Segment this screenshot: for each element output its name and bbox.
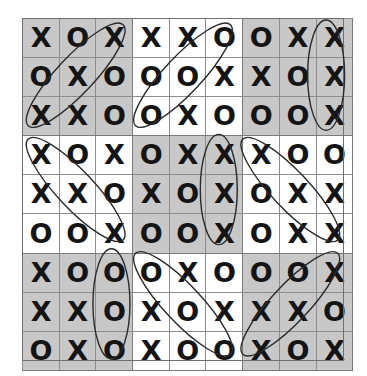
o-mark-glyph: O [317, 136, 353, 174]
grid-cell-r1-c1[interactable]: X [23, 19, 60, 58]
o-mark-glyph: O [206, 254, 242, 292]
grid-cell-r7-c4[interactable]: O [133, 253, 170, 292]
grid-cell-r9-c4[interactable]: X [133, 331, 170, 370]
grid-cell-r3-c7[interactable]: O [243, 97, 280, 136]
x-mark-glyph: X [317, 215, 353, 253]
grid-cell-r9-c7[interactable]: X [243, 331, 280, 370]
grid-cell-r3-c6[interactable]: O [206, 97, 243, 136]
grid-cell-r7-c1[interactable]: X [23, 253, 60, 292]
grid-cell-r7-c3[interactable]: O [96, 253, 133, 292]
grid-cell-r1-c5[interactable]: X [169, 19, 206, 58]
grid-row: XXOOXOOOX [23, 97, 353, 136]
grid-cell-r7-c5[interactable]: X [169, 253, 206, 292]
grid-cell-r7-c9[interactable]: X [316, 253, 353, 292]
x-mark-glyph: X [206, 215, 242, 253]
grid-cell-r2-c1[interactable]: O [23, 58, 60, 97]
grid-cell-r7-c2[interactable]: O [59, 253, 96, 292]
grid-cell-r6-c1[interactable]: O [23, 214, 60, 253]
x-mark-glyph: X [60, 97, 96, 135]
grid-cell-r9-c9[interactable]: X [316, 331, 353, 370]
grid-cell-r6-c4[interactable]: O [133, 214, 170, 253]
grid-cell-r2-c2[interactable]: X [59, 58, 96, 97]
grid-cell-r6-c2[interactable]: O [59, 214, 96, 253]
grid-cell-r9-c5[interactable]: O [169, 331, 206, 370]
grid-cell-r7-c6[interactable]: O [206, 253, 243, 292]
grid-cell-r5-c5[interactable]: O [169, 175, 206, 214]
grid-cell-r5-c3[interactable]: O [96, 175, 133, 214]
grid-cell-r5-c7[interactable]: O [243, 175, 280, 214]
o-mark-glyph: O [60, 136, 96, 174]
grid-cell-r6-c5[interactable]: O [169, 214, 206, 253]
grid-cell-r3-c3[interactable]: O [96, 97, 133, 136]
o-mark-glyph: O [170, 58, 206, 96]
grid-cell-r4-c4[interactable]: O [133, 136, 170, 175]
grid-cell-r4-c1[interactable]: X [23, 136, 60, 175]
grid-cell-r3-c9[interactable]: X [316, 97, 353, 136]
grid-cell-r5-c2[interactable]: X [59, 175, 96, 214]
grid-cell-r2-c5[interactable]: O [169, 58, 206, 97]
grid-cell-r9-c8[interactable]: O [279, 331, 316, 370]
grid-cell-r4-c6[interactable]: X [206, 136, 243, 175]
grid-cell-r6-c7[interactable]: O [243, 214, 280, 253]
x-mark-glyph: X [317, 332, 353, 370]
grid-cell-r1-c8[interactable]: X [279, 19, 316, 58]
grid-cell-r4-c8[interactable]: O [279, 136, 316, 175]
grid-cell-r8-c3[interactable]: O [96, 292, 133, 331]
grid-cell-r1-c6[interactable]: O [206, 19, 243, 58]
grid-cell-r5-c1[interactable]: X [23, 175, 60, 214]
grid-cell-r8-c4[interactable]: X [133, 292, 170, 331]
o-mark-glyph: O [60, 19, 96, 57]
o-mark-glyph: O [280, 58, 316, 96]
grid-cell-r7-c8[interactable]: O [279, 253, 316, 292]
grid-cell-r3-c5[interactable]: X [169, 97, 206, 136]
puzzle-grid-container: XOXXXOOXXOXOOOXXOXXXOOXOOOXXOXOXXXOOXXOX… [22, 18, 344, 361]
grid-cell-r7-c7[interactable]: O [243, 253, 280, 292]
grid-cell-r9-c2[interactable]: X [59, 331, 96, 370]
grid-cell-r8-c1[interactable]: X [23, 292, 60, 331]
grid-cell-r8-c7[interactable]: X [243, 292, 280, 331]
grid-cell-r9-c1[interactable]: O [23, 331, 60, 370]
grid-cell-r1-c2[interactable]: O [59, 19, 96, 58]
grid-cell-r2-c4[interactable]: O [133, 58, 170, 97]
grid-cell-r8-c2[interactable]: X [59, 292, 96, 331]
o-mark-glyph: O [243, 215, 279, 253]
grid-cell-r8-c5[interactable]: O [169, 292, 206, 331]
grid-cell-r1-c4[interactable]: X [133, 19, 170, 58]
x-mark-glyph: X [280, 175, 316, 213]
grid-cell-r2-c6[interactable]: X [206, 58, 243, 97]
grid-cell-r4-c5[interactable]: X [169, 136, 206, 175]
grid-cell-r9-c3[interactable]: O [96, 331, 133, 370]
x-mark-glyph: X [206, 293, 242, 331]
grid-cell-r6-c8[interactable]: X [279, 214, 316, 253]
grid-cell-r1-c3[interactable]: X [96, 19, 133, 58]
grid-cell-r4-c7[interactable]: X [243, 136, 280, 175]
grid-cell-r8-c9[interactable]: O [316, 292, 353, 331]
grid-cell-r6-c9[interactable]: X [316, 214, 353, 253]
grid-cell-r5-c6[interactable]: X [206, 175, 243, 214]
grid-cell-r3-c1[interactable]: X [23, 97, 60, 136]
grid-cell-r6-c6[interactable]: X [206, 214, 243, 253]
o-mark-glyph: O [280, 136, 316, 174]
grid-cell-r2-c7[interactable]: X [243, 58, 280, 97]
grid-cell-r2-c8[interactable]: O [279, 58, 316, 97]
grid-cell-r3-c8[interactable]: O [279, 97, 316, 136]
grid-cell-r4-c3[interactable]: X [96, 136, 133, 175]
grid-cell-r5-c8[interactable]: X [279, 175, 316, 214]
grid-cell-r3-c2[interactable]: X [59, 97, 96, 136]
grid-cell-r4-c9[interactable]: O [316, 136, 353, 175]
grid-cell-r6-c3[interactable]: X [96, 214, 133, 253]
grid-cell-r1-c7[interactable]: O [243, 19, 280, 58]
grid-cell-r5-c4[interactable]: X [133, 175, 170, 214]
grid-cell-r3-c4[interactable]: O [133, 97, 170, 136]
o-mark-glyph: O [133, 254, 169, 292]
grid-cell-r1-c9[interactable]: X [316, 19, 353, 58]
grid-cell-r2-c3[interactable]: O [96, 58, 133, 97]
grid-cell-r4-c2[interactable]: O [59, 136, 96, 175]
grid-body: XOXXXOOXXOXOOOXXOXXXOOXOOOXXOXOXXXOOXXOX… [23, 19, 353, 371]
grid-cell-r8-c8[interactable]: X [279, 292, 316, 331]
grid-cell-r8-c6[interactable]: X [206, 292, 243, 331]
grid-cell-r9-c6[interactable]: O [206, 331, 243, 370]
o-mark-glyph: O [243, 175, 279, 213]
grid-cell-r2-c9[interactable]: X [316, 58, 353, 97]
grid-cell-r5-c9[interactable]: X [316, 175, 353, 214]
